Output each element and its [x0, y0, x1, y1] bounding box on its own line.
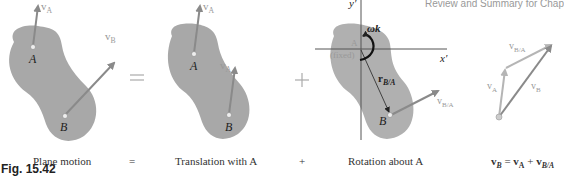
r-ba-label: rB/A — [378, 72, 395, 87]
rigid-body-translation — [168, 24, 250, 139]
caption-vector-equation: vB = vA + vB/A — [491, 155, 554, 170]
omega-k-label: ωk — [367, 22, 380, 34]
caption-equals: = — [129, 155, 135, 167]
vector-label-va: vA — [41, 0, 52, 15]
vector-label-va-top: vA — [203, 0, 214, 15]
triangle-label-va: vA — [487, 80, 497, 94]
figure-graphics — [0, 0, 564, 179]
caption-translation: Translation with A — [175, 155, 257, 167]
point-a-label-2: A — [190, 59, 197, 74]
caption-plus: + — [299, 155, 305, 167]
point-a-fixed-label: A — [351, 38, 358, 48]
vector-label-vba: vB/A — [437, 95, 454, 109]
triangle-label-vba: vB/A — [509, 40, 526, 54]
triangle-label-vb: vB — [531, 80, 541, 94]
caption-rotation: Rotation about A — [348, 155, 423, 167]
point-a-label: A — [29, 52, 36, 67]
axis-x-label: x′ — [440, 52, 447, 64]
point-b-label: B — [60, 120, 67, 135]
figure-label: Fig. 15.42 — [1, 162, 56, 176]
rigid-body-plane — [9, 26, 96, 141]
vector-label-va-bottom: vA — [220, 59, 231, 74]
axis-y-label: y′ — [349, 0, 356, 9]
fixed-label: (fixed) — [330, 50, 355, 60]
point-b-label-3: B — [379, 114, 386, 129]
vector-label-vb: vB — [105, 30, 116, 45]
point-b-label-2: B — [225, 120, 232, 135]
